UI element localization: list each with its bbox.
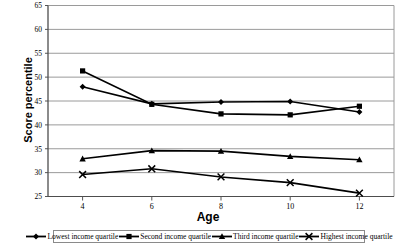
- y-tick-label: 55: [35, 49, 43, 58]
- marker-square: [288, 112, 293, 117]
- marker-diamond: [33, 234, 39, 240]
- legend-item-label: Third income quartile: [233, 233, 298, 241]
- y-tick-label: 40: [35, 121, 43, 130]
- marker-square: [127, 234, 132, 239]
- marker-square: [149, 102, 154, 107]
- y-tick-label: 45: [35, 97, 43, 106]
- legend-key-x: [298, 231, 320, 242]
- marker-diamond: [80, 84, 86, 90]
- series-2: [80, 68, 362, 117]
- legend-item[interactable]: Lowest income quartile: [25, 231, 118, 242]
- legend-key-triangle: [211, 231, 233, 242]
- x-axis-title: Age: [0, 210, 416, 224]
- series-1: [80, 84, 363, 115]
- marker-square: [80, 68, 85, 73]
- y-tick-label: 25: [35, 192, 43, 201]
- marker-square: [357, 104, 362, 109]
- y-tick-label: 50: [35, 73, 43, 82]
- y-tick-label: 30: [35, 168, 43, 177]
- chart-container: Score percentile 25303540455055606546810…: [0, 0, 416, 246]
- marker-diamond: [218, 99, 224, 105]
- marker-diamond: [287, 98, 293, 104]
- legend-item-label: Highest income quartile: [320, 233, 392, 241]
- series-3: [79, 147, 362, 162]
- legend-item[interactable]: Third income quartile: [211, 231, 298, 242]
- legend-item-label: Lowest income quartile: [47, 233, 118, 241]
- y-tick-label: 35: [35, 145, 43, 154]
- legend-key-square: [118, 231, 140, 242]
- y-tick-label: 65: [35, 1, 43, 10]
- legend-item-label: Second income quartile: [140, 233, 211, 241]
- legend-key-diamond: [25, 231, 47, 242]
- series-4: [79, 165, 363, 196]
- legend-item[interactable]: Second income quartile: [118, 231, 211, 242]
- y-tick-label: 60: [35, 25, 43, 34]
- marker-square: [218, 111, 223, 116]
- marker-diamond: [356, 109, 362, 115]
- legend-item[interactable]: Highest income quartile: [298, 231, 392, 242]
- chart-legend: Lowest income quartileSecond income quar…: [53, 230, 365, 243]
